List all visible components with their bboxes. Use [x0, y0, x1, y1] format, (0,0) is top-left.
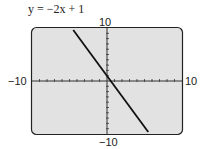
graph-screen	[0, 0, 202, 149]
